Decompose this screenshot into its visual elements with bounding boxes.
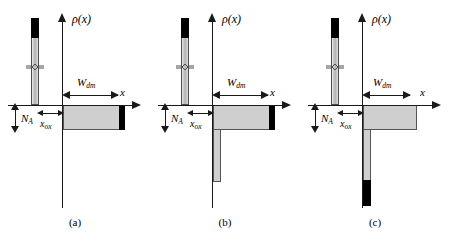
x-ox-arrowhead-left-icon	[37, 110, 43, 116]
x-ox-arrowhead-left-icon	[337, 110, 343, 116]
x-ox-label: xox	[190, 118, 202, 131]
x-axis-label: x	[120, 86, 125, 98]
x-axis-arrowhead-icon	[432, 101, 441, 109]
w-dm-label: Wdm	[77, 76, 95, 90]
panel-caption: (b)	[150, 216, 300, 228]
n-a-arrowhead-down-icon	[11, 126, 19, 133]
charge-distribution-figure: ρ(x) x Wdm NA xox (a) ρ(x) x	[0, 0, 451, 241]
y-axis-arrowhead-icon	[58, 13, 66, 22]
depletion-region	[63, 106, 125, 130]
x-ox-arrowhead-left-icon	[187, 110, 193, 116]
x-ox-label: xox	[340, 118, 352, 131]
panel-c: ρ(x) x Wdm NA xox (c)	[300, 0, 450, 241]
w-dm-dimension-line	[214, 95, 268, 96]
w-dm-dimension-line	[64, 95, 118, 96]
x-ox-arrowhead-right-icon	[208, 110, 214, 116]
x-axis	[308, 105, 434, 106]
y-axis-label: ρ(x)	[372, 12, 391, 27]
axis-break-icon	[26, 62, 44, 71]
gate-charge-sheet	[331, 18, 339, 38]
w-dm-arrowhead-left-icon	[212, 91, 220, 99]
depletion-edge-charge-sheet	[269, 106, 275, 130]
n-a-arrowhead-down-icon	[161, 126, 169, 133]
y-axis-arrowhead-icon	[208, 13, 216, 22]
panel-b: ρ(x) x Wdm NA xox (b)	[150, 0, 300, 241]
x-axis-label: x	[270, 86, 275, 98]
x-ox-arrowhead-right-icon	[58, 110, 64, 116]
panel-caption: (a)	[0, 216, 150, 228]
x-axis-label: x	[420, 86, 425, 98]
gate-charge-sheet	[31, 18, 39, 38]
axis-break-icon	[326, 62, 344, 71]
n-a-arrowhead-up-icon	[311, 103, 319, 110]
panel-caption: (c)	[300, 216, 450, 228]
x-axis	[158, 105, 284, 106]
w-dm-arrowhead-right-icon	[261, 91, 269, 99]
n-a-label: NA	[321, 112, 333, 126]
w-dm-label: Wdm	[227, 76, 245, 90]
depletion-region	[213, 106, 275, 130]
x-ox-arrowhead-right-icon	[358, 110, 364, 116]
n-a-arrowhead-up-icon	[161, 103, 169, 110]
panel-a: ρ(x) x Wdm NA xox (a)	[0, 0, 150, 241]
x-ox-label: xox	[40, 118, 52, 131]
y-axis-label: ρ(x)	[222, 12, 241, 27]
w-dm-arrowhead-right-icon	[111, 91, 119, 99]
n-a-arrowhead-down-icon	[311, 126, 319, 133]
n-a-arrowhead-up-icon	[11, 103, 19, 110]
n-a-label: NA	[171, 112, 183, 126]
gate-charge-sheet	[181, 18, 189, 38]
x-axis-arrowhead-icon	[282, 101, 291, 109]
w-dm-label: Wdm	[373, 76, 391, 90]
w-dm-arrowhead-left-icon	[362, 91, 370, 99]
inversion-charge-column	[213, 130, 221, 182]
axis-break-icon	[176, 62, 194, 71]
x-axis-arrowhead-icon	[132, 101, 141, 109]
y-axis-label: ρ(x)	[72, 12, 91, 27]
depletion-edge-charge-sheet	[119, 106, 125, 130]
depletion-region	[363, 106, 417, 130]
x-axis	[8, 105, 134, 106]
inversion-charge-sheet	[363, 180, 371, 206]
y-axis-arrowhead-icon	[358, 13, 366, 22]
n-a-label: NA	[21, 112, 33, 126]
w-dm-arrowhead-right-icon	[403, 91, 411, 99]
w-dm-arrowhead-left-icon	[62, 91, 70, 99]
